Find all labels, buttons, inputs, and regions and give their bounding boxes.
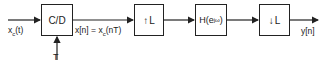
- sampling-period-label: T: [53, 52, 59, 62]
- block-diagram: xc(t) C/D T x[n] = xc(nT) ↑ L H(ejω) ↓ L…: [0, 0, 325, 68]
- filter-block: H(ejω): [195, 4, 227, 36]
- upsampler-block: ↑ L: [134, 4, 164, 36]
- up-arrow-icon: ↑: [143, 15, 148, 26]
- intermediate-signal-label: x[n] = xc(nT): [75, 25, 121, 37]
- downsampler-label: L: [275, 15, 281, 26]
- down-arrow-icon: ↓: [269, 15, 274, 26]
- cd-label: C/D: [48, 15, 65, 26]
- input-label: xc(t): [8, 25, 23, 37]
- upsampler-label: L: [149, 15, 155, 26]
- output-label: y[n]: [301, 26, 315, 36]
- cd-converter-block: C/D: [41, 4, 73, 36]
- downsampler-block: ↓ L: [259, 4, 290, 36]
